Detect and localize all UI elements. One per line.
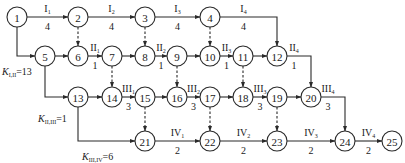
edge-label-2-3: I2 — [108, 3, 114, 15]
node-number: 20 — [306, 92, 318, 104]
edge-duration-23-24: 2 — [309, 145, 314, 156]
node-7: 7 — [102, 46, 122, 66]
nodes-layer: 1234567891011121314151617181920212223242… — [7, 7, 402, 151]
node-25: 25 — [382, 131, 402, 151]
edge-duration-6-7: 1 — [93, 60, 98, 71]
node-number: 3 — [142, 12, 148, 24]
node-number: 11 — [238, 51, 249, 63]
node-number: 17 — [205, 92, 217, 104]
node-number: 25 — [387, 136, 399, 148]
node-number: 16 — [172, 92, 184, 104]
edge-duration-12-20: 1 — [292, 60, 297, 71]
node-number: 1 — [14, 12, 20, 24]
edge-duration-3-4: 4 — [175, 21, 180, 32]
node-16: 16 — [167, 87, 187, 107]
node-number: 10 — [205, 51, 217, 63]
edge-label-16-17: III2 — [187, 83, 200, 95]
node-8: 8 — [135, 46, 155, 66]
node-number: 23 — [272, 136, 284, 148]
edge-duration-20-24: 3 — [326, 101, 331, 112]
node-1: 1 — [7, 7, 27, 27]
annotations-layer: KI,II=13KII,III=1KIII,IV=6 — [1, 66, 113, 163]
node-number: 13 — [73, 92, 85, 104]
node-10: 10 — [200, 46, 220, 66]
edge-duration-16-17: 3 — [191, 101, 196, 112]
node-19: 19 — [267, 87, 287, 107]
edge-duration-24-25: 2 — [366, 145, 371, 156]
node-11: 11 — [233, 46, 253, 66]
node-22: 22 — [200, 131, 220, 151]
node-2: 2 — [68, 7, 88, 27]
annotation-k-ii-iii: KII,III=1 — [37, 113, 67, 125]
edge-label-4-12: I4 — [240, 3, 246, 15]
node-number: 24 — [340, 136, 352, 148]
node-number: 7 — [109, 51, 115, 63]
node-4: 4 — [200, 7, 220, 27]
edge-duration-22-23: 2 — [241, 145, 246, 156]
edge-label-8-9: II2 — [156, 42, 166, 54]
node-6: 6 — [68, 46, 88, 66]
node-number: 14 — [107, 92, 119, 104]
edge-duration-14-15: 3 — [126, 101, 131, 112]
node-18: 18 — [233, 87, 253, 107]
node-number: 4 — [207, 12, 213, 24]
edge-label-6-7: II1 — [90, 42, 100, 54]
edge-4-12 — [220, 17, 277, 46]
node-14: 14 — [102, 87, 122, 107]
node-number: 5 — [42, 51, 48, 63]
node-number: 21 — [140, 136, 151, 148]
edge-duration-4-12: 4 — [241, 21, 246, 32]
node-5: 5 — [35, 46, 55, 66]
edge-duration-1-2: 4 — [45, 21, 50, 32]
node-17: 17 — [200, 87, 220, 107]
edge-duration-21-22: 2 — [175, 145, 180, 156]
edge-label-22-23: IV2 — [237, 127, 251, 139]
node-number: 8 — [142, 51, 148, 63]
node-15: 15 — [135, 87, 155, 107]
node-13: 13 — [68, 87, 88, 107]
edge-13-21 — [78, 107, 135, 141]
edge-1-5 — [17, 27, 35, 56]
edge-label-18-19: III3 — [254, 83, 267, 95]
edge-label-20-24: III4 — [322, 83, 335, 95]
edge-label-12-20: II4 — [289, 42, 299, 54]
edge-duration-10-11: 1 — [224, 60, 229, 71]
edge-duration-18-19: 3 — [258, 101, 263, 112]
edge-duration-8-9: 1 — [159, 60, 164, 71]
node-23: 23 — [267, 131, 287, 151]
node-number: 22 — [205, 136, 216, 148]
edge-label-3-4: I3 — [174, 3, 180, 15]
node-number: 2 — [75, 12, 81, 24]
annotation-k-i-ii: KI,II=13 — [1, 66, 32, 78]
node-20: 20 — [301, 87, 321, 107]
node-number: 9 — [174, 51, 180, 63]
node-number: 19 — [272, 92, 284, 104]
edges-layer — [17, 17, 382, 141]
node-number: 18 — [238, 92, 250, 104]
edge-label-1-2: I1 — [44, 3, 50, 15]
node-21: 21 — [135, 131, 155, 151]
node-9: 9 — [167, 46, 187, 66]
edge-label-24-25: IV4 — [362, 127, 376, 139]
node-number: 12 — [272, 51, 283, 63]
node-12: 12 — [267, 46, 287, 66]
node-number: 15 — [140, 92, 152, 104]
node-number: 6 — [75, 51, 81, 63]
annotation-k-iii-iv: KIII,IV=6 — [81, 151, 113, 163]
edge-label-10-11: II3 — [222, 42, 232, 54]
edge-duration-2-3: 4 — [109, 21, 114, 32]
node-3: 3 — [135, 7, 155, 27]
edge-label-14-15: III1 — [122, 83, 135, 95]
edge-label-21-22: IV1 — [171, 127, 185, 139]
network-diagram: I14I24I34I44II11II21II31II41III13III23II… — [0, 0, 405, 163]
node-24: 24 — [335, 131, 355, 151]
edge-label-23-24: IV3 — [304, 127, 318, 139]
edge-5-13 — [45, 66, 68, 97]
